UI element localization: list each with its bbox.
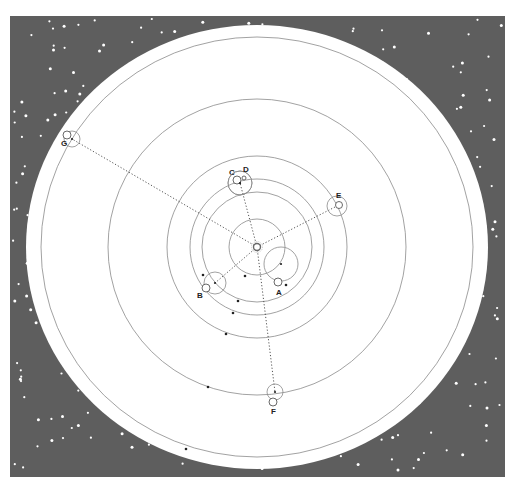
planet-label: G [61,139,67,148]
star [455,382,458,385]
planet-center-dot [239,182,241,184]
star [18,283,20,285]
star [16,362,18,364]
moon-icon [202,284,210,292]
star [82,85,84,87]
moon-icon [242,176,246,180]
planet-label: F [271,407,276,416]
star [496,307,498,309]
star [36,445,38,447]
star [468,33,470,35]
star [486,406,489,409]
planet-center-dot [280,263,282,265]
star [485,440,487,442]
star [72,71,75,74]
star [461,62,464,65]
star [446,449,448,451]
star [87,412,89,414]
star [20,369,22,371]
star [15,182,17,184]
star [22,466,24,468]
star [494,220,497,223]
star [381,439,383,441]
star [121,432,124,435]
star [475,383,477,385]
star [60,372,62,374]
star [64,89,67,92]
planet-label: E [336,191,342,200]
star [461,453,464,456]
orbit-marker-dot [237,300,240,303]
star [485,424,488,427]
star [131,446,134,449]
star [54,92,56,94]
star [482,295,484,297]
star [491,228,494,231]
star [456,108,458,110]
star [102,44,105,47]
planet-center-dot [71,138,73,140]
star [62,437,64,439]
star [469,405,471,407]
star [61,415,64,418]
orbit-marker-dot [185,448,188,451]
star [459,106,462,109]
star [462,94,465,97]
star [30,34,32,36]
star [182,463,184,465]
moon-icon [63,131,71,139]
orbit-marker-dot [225,333,228,336]
star [46,118,49,121]
star [423,452,425,454]
star [487,56,489,58]
star [493,138,496,141]
planet-label: A [276,288,282,297]
star [486,89,488,91]
moon-icon [336,202,343,209]
orbital-diagram: ABCDEFG [0,0,510,484]
star [131,41,133,43]
orbit-marker-dot [202,274,205,277]
star [20,376,22,378]
planet-label: B [197,291,203,300]
star [13,209,15,211]
star [23,396,25,398]
star [397,469,400,472]
star [352,30,354,32]
star [71,427,73,429]
star [13,111,15,113]
star [98,50,101,53]
star [14,463,16,465]
star [476,156,478,158]
star [479,166,481,168]
star [498,404,500,406]
star [430,432,432,434]
star [20,380,22,382]
star [20,101,23,104]
star [29,308,32,311]
star [452,66,454,68]
orbit-marker-dot [207,386,210,389]
star [52,49,55,52]
star [50,418,52,420]
star [173,30,176,33]
star [382,48,384,50]
star [63,25,66,28]
orbit-marker-dot [244,275,247,278]
star [393,46,396,49]
star [488,98,491,101]
star [495,357,497,359]
planet-label: D [243,165,249,174]
star [247,22,250,25]
star [352,28,354,30]
planet-center-dot [274,391,276,393]
star [90,437,92,439]
star [483,125,485,127]
star [148,444,150,446]
star [14,121,16,123]
star [427,32,430,35]
star [77,100,79,102]
star [49,67,52,70]
orbit-marker-dot [232,312,235,315]
star [340,455,342,457]
